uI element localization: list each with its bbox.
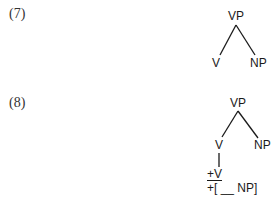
node-vp: VP bbox=[230, 96, 246, 110]
feature-subcat: +[ __ NP] bbox=[207, 181, 257, 195]
node-np: NP bbox=[254, 138, 271, 152]
node-v: V bbox=[215, 138, 223, 152]
feature-category: +V bbox=[207, 167, 222, 181]
